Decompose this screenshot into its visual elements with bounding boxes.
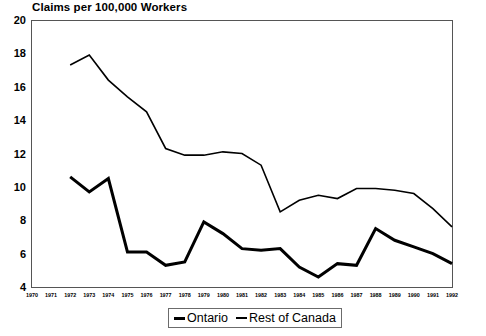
series-lines [70,55,452,277]
legend-line-icon-ontario [174,317,185,320]
legend-label-rest-of-canada: Rest of Canada [249,312,336,325]
chart-legend: Ontario Rest of Canada [168,308,342,328]
legend-line-icon-rest-of-canada [236,317,247,319]
chart-container: Claims per 100,000 Workers 4681012141618… [0,0,486,336]
legend-item-rest-of-canada: Rest of Canada [236,312,336,325]
legend-item-ontario: Ontario [174,312,228,325]
series-line-ontario [70,177,452,277]
series-line-rest-of-canada [70,55,452,227]
plot-area [0,0,486,336]
legend-label-ontario: Ontario [187,312,228,325]
